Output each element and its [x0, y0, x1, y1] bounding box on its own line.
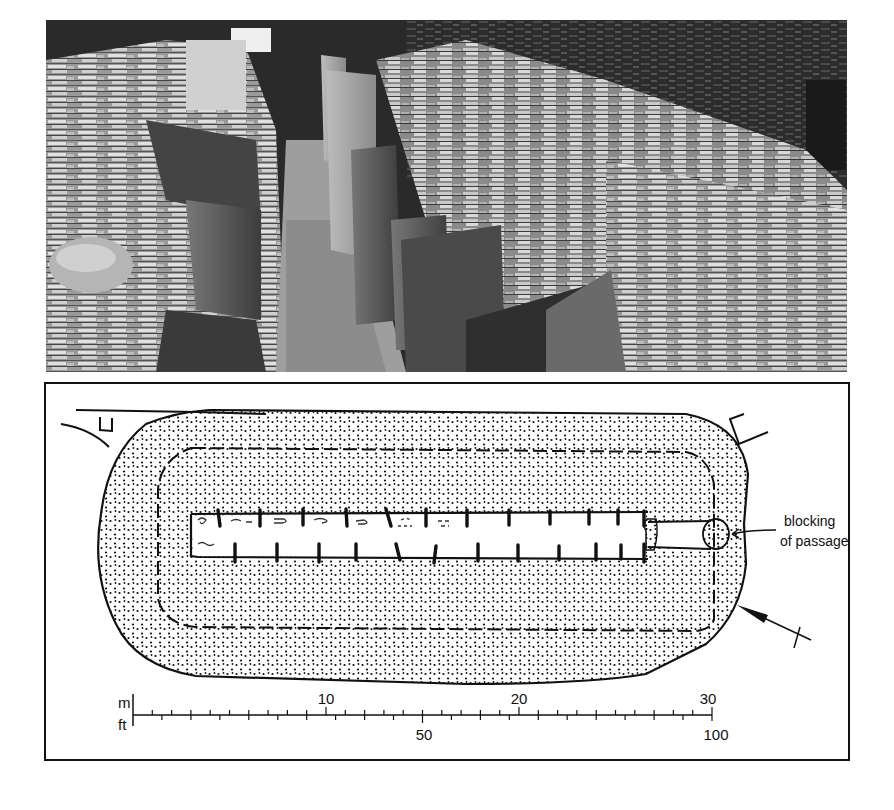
annotation-line1: blocking	[784, 513, 835, 529]
scale-label-10m: 10	[318, 690, 335, 707]
scale-label-50ft: 50	[416, 726, 433, 743]
north-arrow-icon	[737, 605, 811, 648]
plan-drawing-frame: blocking of passage	[44, 382, 850, 761]
survey-marker	[730, 414, 768, 444]
annotation-line2: of passage	[780, 533, 848, 549]
photo-illustration	[46, 20, 847, 372]
scale-label-30m: 30	[700, 690, 717, 707]
scale-unit-metric: m	[118, 694, 131, 711]
scale-unit-imperial: ft	[118, 716, 127, 733]
scale-label-100ft: 100	[703, 726, 728, 743]
scale-label-20m: 20	[511, 690, 528, 707]
cairn-plan: blocking of passage	[46, 384, 848, 759]
cairn-photograph	[46, 20, 847, 372]
scale-bar: m ft 10 20 30 50 100	[118, 690, 729, 743]
